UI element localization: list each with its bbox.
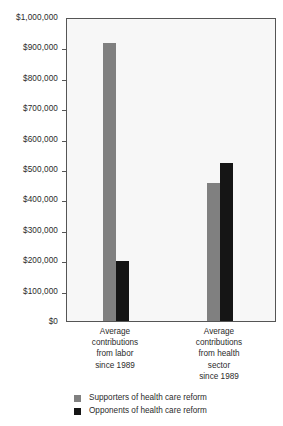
bar-group-labor [103, 19, 129, 321]
y-axis: $1,000,000 $900,000 $800,000 $700,000 $6… [0, 0, 66, 340]
bar-supporters-labor [103, 43, 116, 321]
y-tick-mark [62, 201, 67, 202]
y-tick-label: $600,000 [23, 135, 58, 143]
y-tick-label: $900,000 [23, 44, 58, 52]
x-label-line: sector [171, 360, 267, 371]
x-label-line: Average [67, 326, 163, 337]
x-label-line: from health [171, 348, 267, 359]
y-tick-mark [62, 49, 67, 50]
y-tick-label: $0 [49, 318, 58, 326]
x-axis: Average contributions from labor since 1… [66, 326, 276, 388]
bar-opponents-labor [116, 261, 129, 321]
y-tick-label: $400,000 [23, 196, 58, 204]
y-tick-label: $200,000 [23, 257, 58, 265]
legend-item-supporters: Supporters of health care reform [74, 392, 274, 405]
y-tick-mark [62, 232, 67, 233]
x-label-line: contributions [171, 337, 267, 348]
x-label-line: since 1989 [171, 371, 267, 382]
x-category-label-health-sector: Average contributions from health sector… [171, 326, 267, 382]
legend-label: Opponents of health care reform [89, 407, 207, 415]
y-tick-mark [62, 262, 67, 263]
bar-chart: $1,000,000 $900,000 $800,000 $700,000 $6… [0, 0, 283, 426]
y-tick-label: $1,000,000 [16, 14, 58, 22]
legend-swatch-icon [74, 395, 81, 402]
bar-opponents-health-sector [220, 163, 233, 321]
y-tick-label: $800,000 [23, 75, 58, 83]
y-tick-label: $700,000 [23, 105, 58, 113]
y-tick-label: $300,000 [23, 227, 58, 235]
bar-supporters-health-sector [207, 183, 220, 321]
y-tick-mark [62, 110, 67, 111]
bar-group-health-sector [207, 19, 233, 321]
y-tick-mark [62, 293, 67, 294]
x-label-line: contributions [67, 337, 163, 348]
y-tick-label: $100,000 [23, 287, 58, 295]
x-label-line: Average [171, 326, 267, 337]
y-tick-mark [62, 141, 67, 142]
plot-area [66, 18, 276, 322]
legend-item-opponents: Opponents of health care reform [74, 405, 274, 418]
y-tick-mark [62, 171, 67, 172]
x-category-label-labor: Average contributions from labor since 1… [67, 326, 163, 371]
x-label-line: since 1989 [67, 360, 163, 371]
y-tick-mark [62, 80, 67, 81]
legend: Supporters of health care reform Opponen… [74, 392, 274, 418]
legend-label: Supporters of health care reform [89, 394, 207, 402]
legend-swatch-icon [74, 408, 81, 415]
y-tick-label: $500,000 [23, 166, 58, 174]
x-label-line: from labor [67, 348, 163, 359]
